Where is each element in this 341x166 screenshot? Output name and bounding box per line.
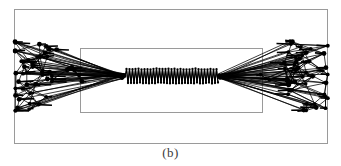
graph-node [205,82,207,84]
graph-node [47,70,52,75]
graph-node [146,68,148,70]
graph-node [166,82,168,84]
graph-node [324,95,328,99]
graph-node [310,74,315,79]
graph-node [127,82,129,84]
graph-node [179,68,181,70]
graph-node [267,78,271,82]
graph-node [140,68,142,70]
graph-node [46,54,50,58]
graph-node [40,71,44,75]
graph-node [44,95,48,99]
graph-node [321,69,325,73]
graph-node [26,58,30,62]
graph-node [209,68,211,70]
graph-edge [275,94,288,95]
graph-node [19,59,23,63]
graph-node [211,82,213,84]
graph-node [37,103,41,107]
graph-node [139,81,141,83]
graph-node [286,92,290,96]
graph-node [151,82,153,84]
figure-caption: (b) [0,143,341,163]
graph-node [293,80,298,85]
graph-node [301,75,305,79]
graph-node [130,82,132,84]
graph-node [44,44,49,49]
graph-node [154,82,156,84]
graph-node [13,49,18,54]
graph-node [161,68,163,70]
graph-node [196,81,198,83]
graph-node [259,73,263,77]
graph-edge [39,105,52,106]
graph-edge [276,44,290,45]
graph-node [124,75,127,78]
graph-node [50,74,54,78]
graph-edge [15,43,30,44]
graph-node [191,68,193,70]
graph-node [21,72,25,76]
graph-node [173,68,175,70]
graph-node [287,88,292,93]
graph-node [28,102,32,106]
graph-node [167,68,169,70]
graph-node [37,42,42,47]
graph-node [190,82,192,84]
graph-node [169,82,171,84]
graph-node [152,68,154,70]
graph-node [148,82,150,84]
graph-node [217,81,219,83]
graph-node [24,82,29,87]
graph-node [145,82,147,84]
graph-node [304,71,308,75]
figure-panel: (b) [0,0,341,166]
graph-node [172,82,174,84]
graph-node [176,68,178,70]
graph-node [163,82,165,84]
graph-node [187,82,189,84]
graph-node [134,68,136,70]
graph-node [203,68,205,70]
graph-node [305,102,309,106]
graph-node [143,68,145,70]
graph-node [308,59,312,63]
graph-node [175,82,177,84]
graph-node [149,68,151,70]
graph-edge [52,76,66,77]
graph-node [324,106,328,110]
graph-node [77,72,82,77]
graph-node [51,77,55,81]
graph-node [294,68,298,72]
graph-node [28,91,32,95]
graph-node [208,81,210,83]
graph-node [158,68,160,70]
graph-node [322,51,327,56]
graph-node [294,56,298,60]
graph-node [215,68,217,70]
graph-node [326,73,330,77]
graph-node [181,82,183,84]
graph-node [309,47,313,51]
graph-node [184,82,186,84]
graph-node [137,67,139,69]
graph-node [136,82,138,84]
graph-node [304,82,308,86]
graph-node [313,103,317,107]
graph-node [14,86,18,90]
graph-node [188,68,190,70]
graph-node [202,82,204,84]
graph-node [170,68,172,70]
graph-node [45,77,50,82]
graph-node [30,62,35,67]
graph-node [160,82,162,84]
graph-node [69,65,74,70]
graph-node [200,68,202,70]
graph-node [13,93,18,98]
graph-node [155,67,157,69]
graph-node [164,68,166,70]
graph-node [33,82,38,87]
graph-node [289,42,293,46]
graph-node [142,82,144,84]
graph-node [304,50,309,55]
